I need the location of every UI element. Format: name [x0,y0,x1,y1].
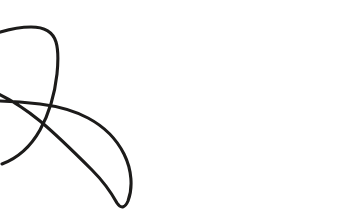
drawing-canvas [0,0,360,219]
canvas-background [0,0,360,219]
line-drawing-svg [0,0,360,219]
